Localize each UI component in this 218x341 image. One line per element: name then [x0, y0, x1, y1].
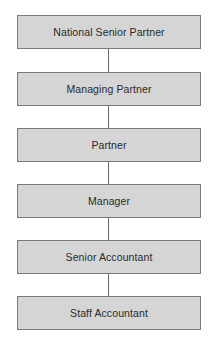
connector-line: [108, 162, 109, 184]
node-partner: Partner: [17, 128, 201, 162]
node-label: Manager: [88, 195, 130, 207]
node-manager: Manager: [17, 184, 201, 218]
node-label: Staff Accountant: [70, 307, 148, 319]
connector-line: [108, 218, 109, 240]
node-staff-accountant: Staff Accountant: [17, 296, 201, 330]
connector-line: [108, 49, 109, 72]
node-label: Managing Partner: [66, 83, 151, 95]
node-label: Partner: [91, 139, 126, 151]
node-label: National Senior Partner: [53, 26, 164, 38]
org-chart: National Senior Partner Managing Partner…: [0, 0, 218, 341]
node-senior-accountant: Senior Accountant: [17, 240, 201, 274]
node-managing-partner: Managing Partner: [17, 72, 201, 106]
connector-line: [108, 274, 109, 296]
connector-line: [108, 106, 109, 128]
node-label: Senior Accountant: [66, 251, 153, 263]
node-national-senior-partner: National Senior Partner: [17, 15, 201, 49]
